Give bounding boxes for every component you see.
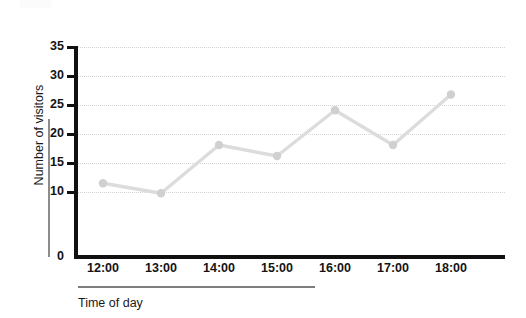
data-point-1400 xyxy=(215,141,223,149)
y-tick-30 xyxy=(67,75,75,78)
y-tick-label-35: 35 xyxy=(36,40,64,53)
series-line xyxy=(103,95,451,194)
y-tick-15 xyxy=(67,162,75,165)
x-axis-spine xyxy=(74,255,505,259)
y-tick-35 xyxy=(67,46,75,49)
data-point-1600 xyxy=(331,106,339,114)
y-tick-25 xyxy=(67,104,75,107)
x-tick-label-1800: 18:00 xyxy=(416,262,486,275)
data-point-1200 xyxy=(99,179,107,187)
y-tick-20 xyxy=(67,133,75,136)
data-point-1500 xyxy=(273,152,281,160)
data-point-1800 xyxy=(447,90,455,98)
data-point-1700 xyxy=(389,141,397,149)
y-tick-10 xyxy=(67,191,75,194)
y-tick-label-0: 0 xyxy=(36,250,64,263)
x-axis-title-rule xyxy=(78,286,315,288)
data-point-1300 xyxy=(157,189,165,197)
y-axis-title-rule xyxy=(48,119,50,257)
line-chart-figure: 0101520253035 12:0013:0014:0015:0016:001… xyxy=(0,0,526,318)
y-axis-title: Number of visitors xyxy=(32,60,46,210)
x-axis-title: Time of day xyxy=(78,296,143,310)
